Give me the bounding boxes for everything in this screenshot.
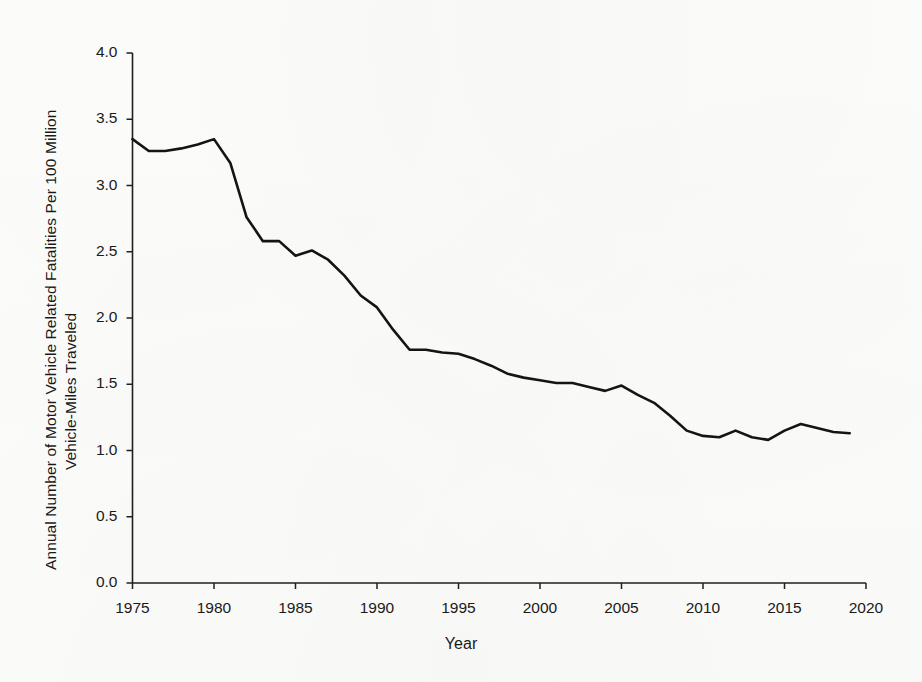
- axis-lines: [133, 53, 867, 583]
- y-axis-tick-label: 0.0: [78, 573, 118, 591]
- y-axis-tick-label: 1.0: [78, 441, 118, 459]
- x-axis-tick-label: 1980: [184, 599, 244, 617]
- chart-figure: Annual Number of Motor Vehicle Related F…: [0, 0, 922, 682]
- fatality-rate-line: [133, 139, 850, 440]
- x-axis-tick-label: 2000: [510, 599, 570, 617]
- y-axis-tick-label: 3.0: [78, 176, 118, 194]
- x-axis-tick-label: 1975: [103, 599, 163, 617]
- y-axis-ticks: [127, 53, 133, 583]
- x-axis-ticks: [133, 583, 867, 589]
- y-axis-tick-label: 2.5: [78, 242, 118, 260]
- x-axis-title: Year: [0, 635, 922, 653]
- x-axis-tick-label: 2015: [755, 599, 815, 617]
- y-axis-tick-label: 3.5: [78, 109, 118, 127]
- y-axis-tick-label: 0.5: [78, 507, 118, 525]
- x-axis-tick-label: 1995: [429, 599, 489, 617]
- y-axis-title-line-1: Annual Number of Motor Vehicle Related F…: [42, 109, 60, 570]
- x-axis-tick-label: 1985: [266, 599, 326, 617]
- y-axis-tick-label: 4.0: [78, 43, 118, 61]
- line-chart-plot: [0, 0, 922, 682]
- x-axis-tick-label: 2020: [836, 599, 896, 617]
- x-axis-tick-label: 1990: [347, 599, 407, 617]
- y-axis-tick-label: 1.5: [78, 374, 118, 392]
- x-axis-tick-label: 2010: [673, 599, 733, 617]
- x-axis-tick-label: 2005: [592, 599, 652, 617]
- y-axis-tick-label: 2.0: [78, 308, 118, 326]
